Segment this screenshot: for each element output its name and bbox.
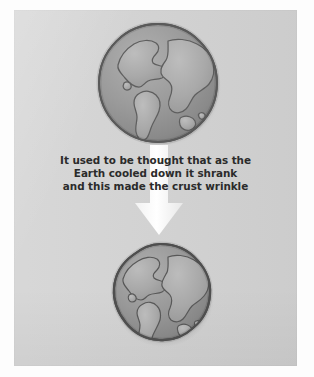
figure-root: It used to be thought that as the Earth …: [0, 0, 314, 377]
caption-line-3: and this made the crust wrinkle: [14, 180, 297, 193]
caption-line-2: Earth cooled down it shrank: [14, 167, 297, 180]
caption-text: It used to be thought that as the Earth …: [14, 154, 297, 194]
caption-line-1: It used to be thought that as the: [14, 154, 297, 167]
globe-earth-before: [96, 21, 222, 147]
globe-earth-after: [105, 240, 215, 350]
